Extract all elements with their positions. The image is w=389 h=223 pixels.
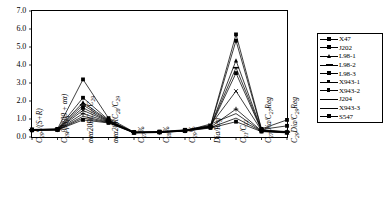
chart-root: 0.01.02.03.04.05.06.07.0 C29S/(S+R)C29ββ… — [0, 0, 389, 223]
legend-label: L98-1 — [339, 52, 356, 60]
legend-item[interactable]: J204 — [319, 95, 380, 104]
legend-label: X47 — [339, 35, 351, 43]
legend-symbol-icon — [319, 52, 339, 60]
legend-item[interactable]: L98-1 — [319, 52, 380, 61]
legend-item[interactable]: X47 — [319, 35, 380, 44]
legend-symbol-icon — [319, 104, 339, 112]
legend-symbol-icon — [319, 87, 339, 95]
legend-item[interactable]: L98-3 — [319, 69, 380, 78]
legend-label: S547 — [339, 113, 353, 121]
legend-item[interactable]: X943-3 — [319, 104, 380, 113]
legend-label: X943-1 — [339, 78, 360, 86]
legend-symbol-icon — [319, 44, 339, 52]
legend-symbol-icon — [319, 61, 339, 69]
legend-symbol-icon — [319, 95, 339, 103]
legend-item[interactable]: J202 — [319, 44, 380, 53]
legend-label: X943-3 — [339, 104, 360, 112]
legend-symbol-icon — [319, 78, 339, 86]
legend-label: L98-2 — [339, 61, 356, 69]
legend-item[interactable]: L98-2 — [319, 61, 380, 70]
legend-symbol-icon — [319, 113, 339, 121]
legend-label: J202 — [339, 44, 352, 52]
legend-label: X943-2 — [339, 87, 360, 95]
legend-label: J204 — [339, 95, 352, 103]
legend-item[interactable]: S547 — [319, 112, 380, 121]
legend-symbol-icon — [319, 35, 339, 43]
chart-legend: X47J202L98-1L98-2L98-3X943-1X943-2J204X9… — [317, 33, 383, 123]
legend-label: L98-3 — [339, 70, 356, 78]
legend-item[interactable]: X943-1 — [319, 78, 380, 87]
legend-symbol-icon — [319, 70, 339, 78]
legend-item[interactable]: X943-2 — [319, 87, 380, 96]
